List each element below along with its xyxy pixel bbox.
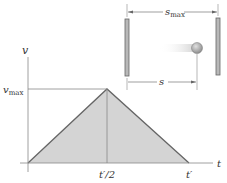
x-tick-full: t′ (186, 169, 193, 180)
ball (192, 43, 203, 54)
smax-label: smax (165, 6, 185, 19)
s-label: s (159, 76, 164, 87)
vmax-label: vmax (3, 84, 23, 97)
smax-arrow-right (212, 11, 217, 14)
motion-trail (160, 44, 196, 52)
smax-arrow-left (128, 11, 133, 14)
velocity-area (28, 89, 189, 163)
y-axis-label: v (22, 44, 29, 57)
left-wall (125, 19, 129, 76)
s-arrow-right (191, 81, 196, 84)
x-tick-half: t′/2 (99, 169, 115, 180)
diagram-canvas: v t vmax t′/2 t′ smax s (0, 0, 227, 183)
right-wall (216, 18, 220, 75)
x-axis-label: t (217, 158, 222, 169)
